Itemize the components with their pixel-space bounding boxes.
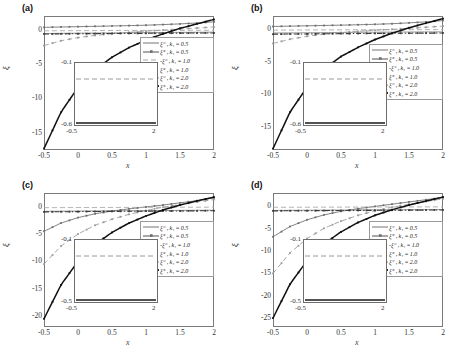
series-marker — [374, 214, 376, 216]
series-marker — [366, 24, 368, 26]
series-marker — [374, 39, 376, 41]
series-marker — [94, 211, 96, 213]
series-marker — [43, 33, 45, 35]
series-marker — [417, 21, 419, 23]
series-marker — [52, 26, 54, 28]
series-marker — [94, 25, 96, 27]
series-marker — [94, 33, 96, 35]
series-marker — [391, 203, 393, 205]
panel-a: (a) ξ 0-5-10-15 -0.500.511.52 x ξ⁻ , k₁ … — [0, 0, 228, 176]
series-marker — [52, 33, 54, 35]
legend-label: ξ⁺ , k₁ = 1.0 — [389, 250, 417, 257]
series-marker — [188, 32, 190, 34]
legend-label: ξ⁻ , k₁ = 0.5 — [160, 224, 188, 231]
series-marker — [213, 21, 215, 23]
inset-plot — [74, 239, 158, 303]
series-marker — [349, 33, 351, 35]
series-marker — [289, 283, 291, 285]
series-marker — [306, 25, 308, 27]
y-tick-label: 0 — [247, 25, 271, 33]
series-marker — [272, 317, 274, 319]
y-tick-label: -5 — [247, 225, 271, 233]
legend-label: -ξ⁻ , k₁ = 1.0 — [389, 64, 419, 71]
series-marker — [400, 28, 402, 30]
series-marker — [272, 210, 274, 212]
series-marker — [120, 216, 122, 218]
series-marker — [145, 215, 147, 217]
series-marker — [154, 24, 156, 26]
series-marker — [374, 206, 376, 208]
series-marker — [272, 236, 274, 238]
series-marker — [383, 29, 385, 31]
y-tick-label: -25 — [247, 314, 271, 322]
series-marker — [145, 32, 147, 34]
series-marker — [442, 32, 444, 34]
legend-line-sample — [142, 39, 160, 47]
series-marker — [357, 46, 359, 48]
legend-label: ξ⁺ , k₁ = 0.5 — [160, 232, 188, 239]
series-marker — [332, 212, 334, 214]
series-marker — [86, 215, 88, 217]
series-marker — [188, 202, 190, 204]
x-tick-label: 1 — [373, 151, 377, 160]
x-tick-label: 1 — [144, 151, 148, 160]
series-marker — [340, 231, 342, 233]
x-tick-label: -0.5 — [267, 151, 279, 160]
x-tick-label: 0.5 — [107, 328, 116, 337]
x-tick-label: 0 — [76, 151, 80, 160]
x-tick-label: 0.5 — [336, 151, 345, 160]
series-marker — [298, 222, 300, 224]
series-marker — [417, 32, 419, 34]
series-marker — [145, 210, 147, 212]
series-marker — [77, 26, 79, 28]
series-marker — [400, 205, 402, 207]
inset-plot — [74, 62, 158, 126]
series-marker — [205, 21, 207, 23]
series-marker — [442, 20, 444, 22]
series-marker — [69, 26, 71, 28]
x-tick-label: -0.5 — [267, 328, 279, 337]
y-tick-label: 0 — [247, 202, 271, 210]
series-marker — [128, 213, 130, 215]
series-marker — [340, 33, 342, 35]
series-marker — [52, 42, 54, 44]
series-marker — [171, 23, 173, 25]
series-marker — [366, 218, 368, 220]
legend-label: ξ⁻ , k₁ = 0.5 — [389, 47, 417, 54]
x-tick-label: 1 — [144, 328, 148, 337]
series-marker — [120, 25, 122, 27]
series-marker — [77, 37, 79, 39]
series-marker — [171, 32, 173, 34]
y-tick-label: -15 — [247, 123, 271, 131]
series-marker — [315, 25, 317, 27]
series-marker — [196, 210, 198, 212]
series-marker — [213, 26, 215, 28]
inset-x-tick-left: -0.5 — [66, 304, 77, 312]
series-marker — [111, 56, 113, 58]
series-marker — [52, 130, 54, 132]
panel-label-d: (d) — [251, 180, 263, 190]
series-marker — [145, 206, 147, 208]
y-ticks-d: 0-5-10-15-20-25 — [245, 193, 271, 327]
series-marker — [188, 210, 190, 212]
legend-label: ξ⁻ , k₁ = 0.5 — [389, 224, 417, 231]
series-marker — [154, 210, 156, 212]
series-marker — [162, 209, 164, 211]
series-marker — [213, 32, 215, 34]
series-marker — [69, 211, 71, 213]
series-marker — [171, 210, 173, 212]
x-tick-label: 1.5 — [404, 151, 413, 160]
series-marker — [281, 210, 283, 212]
series-marker — [171, 203, 173, 205]
legend-label: ξ⁺ , k₁ = 2.0 — [389, 267, 417, 274]
series-marker — [391, 32, 393, 34]
series-marker — [137, 219, 139, 221]
series-marker — [171, 30, 173, 32]
series-marker — [137, 210, 139, 212]
y-tick-label: 0 — [18, 26, 42, 34]
legend-label: ξ⁻ , k₁ = 0.5 — [160, 40, 188, 47]
series-marker — [400, 30, 402, 32]
series-marker — [340, 220, 342, 222]
series-marker — [434, 32, 436, 34]
series-marker — [391, 23, 393, 25]
